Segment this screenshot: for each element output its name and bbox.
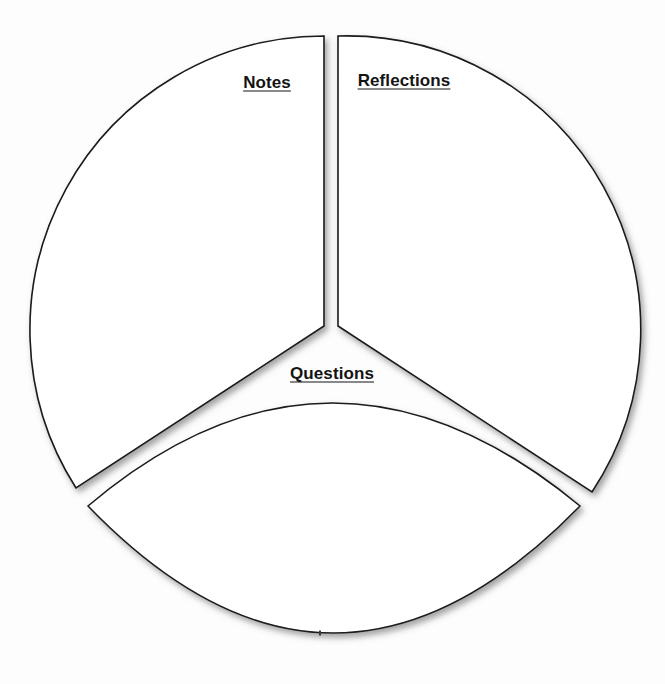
three-segment-circle-diagram [0,0,665,684]
segment-label-reflections: Reflections [358,72,451,89]
segment-label-questions: Questions [290,365,374,382]
segment-questions[interactable] [88,403,580,633]
bottom-tick-mark [319,631,321,636]
diagram-canvas: Notes Reflections Questions [0,0,665,684]
segment-label-notes: Notes [243,74,291,91]
